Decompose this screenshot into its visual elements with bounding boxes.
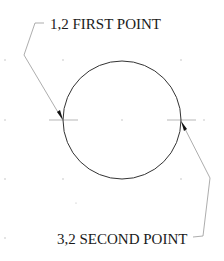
second-point-label: 3,2 SECOND POINT — [57, 232, 187, 247]
grid-dots — [4, 59, 204, 238]
arrowhead-second-point-icon — [181, 121, 187, 131]
leader-line-first-point — [24, 23, 62, 119]
leader-line-second-point — [181, 121, 210, 237]
first-point-label: 1,2 FIRST POINT — [50, 17, 161, 32]
diagram-canvas — [0, 0, 224, 261]
arrowhead-first-point-icon — [57, 110, 63, 120]
